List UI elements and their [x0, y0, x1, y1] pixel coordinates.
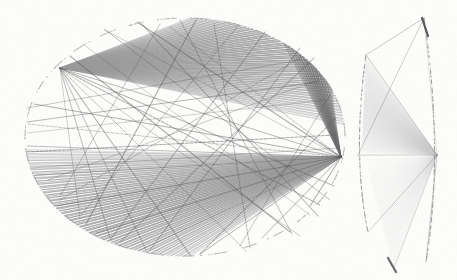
paper-grain-overlay — [0, 0, 457, 280]
geometric-figure-svg — [0, 0, 457, 280]
figure-canvas — [0, 0, 457, 280]
